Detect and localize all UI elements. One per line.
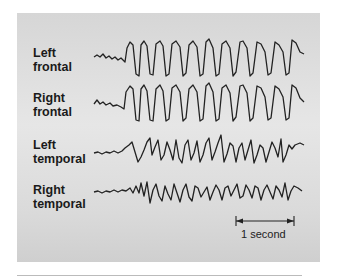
scale-bar — [236, 216, 294, 226]
trace-right-frontal — [94, 83, 304, 121]
trace-right-temporal — [94, 182, 302, 203]
eeg-traces — [0, 0, 337, 277]
divider — [17, 275, 302, 276]
trace-left-frontal — [94, 39, 304, 76]
scale-bar-label: 1 second — [241, 228, 286, 240]
trace-left-temporal — [94, 135, 304, 163]
